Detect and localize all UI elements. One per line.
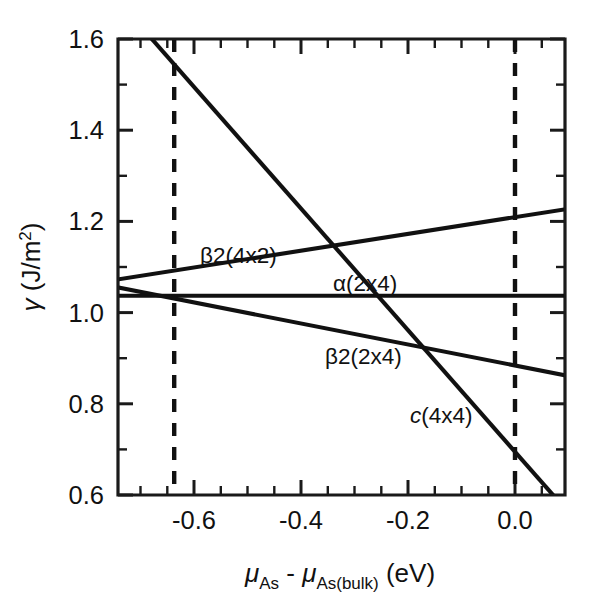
y-axis-title-units-open: (J/m: [16, 241, 46, 299]
y-tick-label-1-6: 1.6: [69, 25, 104, 53]
y-tick-label-0-8: 0.8: [69, 390, 104, 418]
y-axis-title: γ (J/m2): [16, 223, 46, 312]
x-tick-label-0-0: 0.0: [497, 506, 532, 534]
curve-label-beta2-4x2: β2(4x2): [200, 243, 277, 268]
y-tick-labels: 1.6 1.4 1.2 1.0 0.8 0.6: [69, 25, 104, 509]
y-axis-title-exponent: 2: [16, 231, 35, 240]
x-axis-title-units: (eV): [379, 558, 435, 588]
curve-labels: β2(4x2) α(2x4) β2(2x4) c(4x4): [200, 243, 473, 428]
y-tick-label-1-0: 1.0: [69, 299, 104, 327]
data-series-group: [118, 1, 566, 510]
x-tick-label-neg-0-2: -0.2: [386, 506, 430, 534]
svg-text:γ (J/m2): γ (J/m2): [16, 223, 46, 312]
y-tick-label-1-2: 1.2: [69, 207, 104, 235]
series-line-beta2-4x2: [118, 209, 566, 279]
x-axis-title: μAs - μAs(bulk) (eV): [244, 558, 435, 593]
series-line-c4x4: [118, 1, 566, 510]
surface-energy-phase-diagram: 1.6 1.4 1.2 1.0 0.8 0.6 -0.6 -0.4 -0.2 0…: [0, 0, 592, 615]
y-tick-label-1-4: 1.4: [69, 116, 104, 144]
x-axis-title-minus: -: [279, 558, 302, 588]
x-axis-title-mu-1: μ: [244, 558, 259, 588]
svg-text:μAs - μAs(bulk) (eV): μAs - μAs(bulk) (eV): [244, 558, 435, 593]
curve-label-c4x4-prefix: c: [410, 403, 421, 428]
y-tick-label-0-6: 0.6: [69, 481, 104, 509]
curve-label-c4x4-suffix: (4x4): [421, 403, 472, 428]
y-axis-title-units-close: ): [16, 223, 46, 232]
x-tick-label-neg-0-4: -0.4: [279, 506, 323, 534]
x-tick-labels: -0.6 -0.4 -0.2 0.0: [172, 506, 533, 534]
x-axis-title-mu-2-sub: As(bulk): [316, 574, 378, 593]
x-tick-label-neg-0-6: -0.6: [172, 506, 216, 534]
x-axis-title-mu-1-sub: As: [259, 574, 279, 593]
curve-label-alpha-2x4: α(2x4): [333, 271, 397, 296]
curve-label-beta2-2x4: β2(2x4): [325, 344, 402, 369]
plot-svg: 1.6 1.4 1.2 1.0 0.8 0.6 -0.6 -0.4 -0.2 0…: [0, 0, 592, 615]
x-axis-title-mu-2: μ: [301, 558, 316, 588]
curve-label-c4x4: c(4x4): [410, 403, 473, 428]
